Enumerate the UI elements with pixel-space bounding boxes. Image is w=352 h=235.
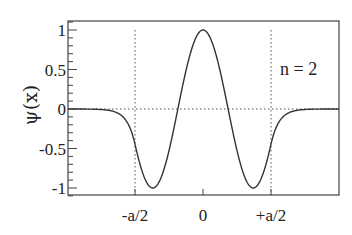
y-tick-label: 0.5: [45, 61, 66, 80]
x-tick-label: +a/2: [256, 206, 286, 225]
plot-frame: [68, 21, 339, 195]
y-axis: 10.50-0.5-1: [39, 21, 77, 198]
x-tick-label: -a/2: [122, 206, 148, 225]
quantum-number-label: n = 2: [280, 59, 317, 79]
plot-border: [68, 21, 339, 195]
x-tick-label: 0: [199, 206, 208, 225]
y-tick-label: 1: [58, 21, 67, 40]
y-axis-title: ψ(x): [19, 85, 41, 125]
y-tick-label: -1: [52, 179, 66, 198]
wavefunction-chart: 10.50-0.5-1 -a/20+a/2 ψ(x) n = 2: [0, 0, 352, 235]
y-tick-label: 0: [58, 100, 67, 119]
y-tick-label: -0.5: [39, 140, 66, 159]
x-axis: -a/20+a/2: [122, 189, 286, 225]
reference-lines: [68, 30, 339, 195]
